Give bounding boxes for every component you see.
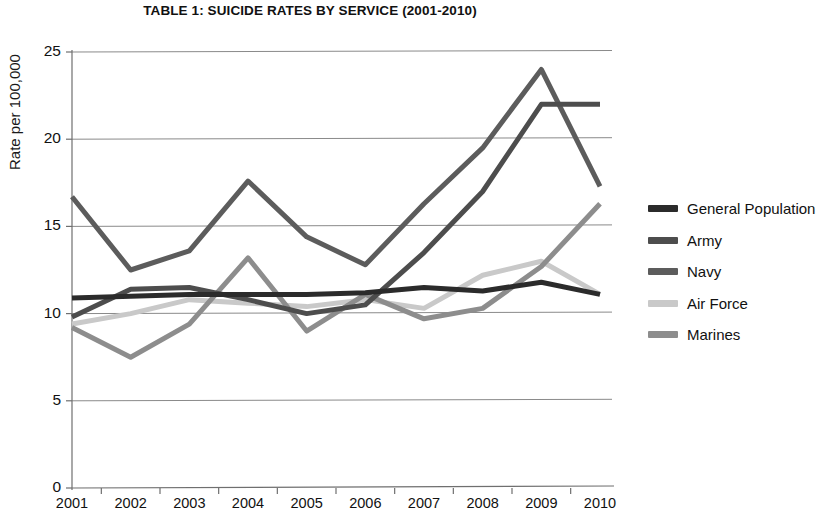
x-tick-label: 2009 [513, 496, 569, 511]
legend-swatch-icon [648, 300, 678, 307]
y-tick-label: 20 [27, 130, 61, 146]
legend-item[interactable]: General Population [648, 200, 815, 217]
legend-swatch-icon [648, 268, 678, 275]
chart-container: TABLE 1: SUICIDE RATES BY SERVICE (2001-… [0, 0, 830, 530]
y-tick-label: 0 [27, 479, 61, 495]
legend-item[interactable]: Marines [648, 326, 815, 343]
legend-swatch-icon [648, 205, 678, 212]
x-tick-label: 2002 [103, 496, 159, 511]
legend-item[interactable]: Navy [648, 263, 815, 280]
legend-label: General Population [687, 200, 815, 217]
gridline [72, 138, 612, 140]
x-tick-label: 2005 [279, 496, 335, 511]
gridline [72, 51, 612, 53]
series-line [72, 204, 600, 357]
y-tick-label: 10 [27, 305, 61, 321]
y-tick-label: 5 [27, 392, 61, 408]
data-series-layer [72, 69, 600, 357]
x-tick-label: 2004 [220, 496, 276, 511]
x-tick-label: 2010 [572, 496, 628, 511]
x-tick-label: 2003 [161, 496, 217, 511]
chart-svg [0, 0, 640, 530]
y-tick-label: 25 [27, 43, 61, 59]
y-tick-label: 15 [27, 217, 61, 233]
legend-item[interactable]: Air Force [648, 295, 815, 312]
gridline [72, 399, 612, 401]
x-tick-label: 2007 [396, 496, 452, 511]
legend-swatch-icon [648, 331, 678, 338]
gridline [72, 225, 612, 227]
x-tick-label: 2001 [44, 496, 100, 511]
legend-swatch-icon [648, 237, 678, 244]
x-tick-label: 2006 [337, 496, 393, 511]
legend-label: Marines [687, 326, 740, 343]
x-tick-label: 2008 [455, 496, 511, 511]
plot-area: 0510152025 20012002200320042005200620072… [0, 0, 640, 530]
legend-label: Navy [687, 263, 721, 280]
legend-label: Air Force [687, 295, 748, 312]
x-axis-line [72, 486, 614, 488]
legend-label: Army [687, 232, 722, 249]
legend-item[interactable]: Army [648, 232, 815, 249]
gridline [72, 312, 612, 314]
series-line [72, 69, 600, 270]
chart-legend: General PopulationArmyNavyAir ForceMarin… [648, 200, 815, 343]
